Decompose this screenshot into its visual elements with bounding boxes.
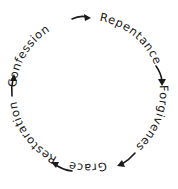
stage-repentance-label: Repentance	[99, 10, 165, 67]
cycle-diagram-svg: Confession Repentance Forgivenes Grace R…	[0, 0, 178, 189]
curved-arrow-right-icon	[72, 14, 91, 21]
stage-restoration: Restoration	[6, 100, 59, 167]
stage-grace: Grace	[67, 159, 108, 175]
stage-forgiveness: Forgivenes	[133, 85, 171, 155]
stage-forgiveness-label: Forgivenes	[133, 85, 171, 155]
cycle-diagram: Confession Repentance Forgivenes Grace R…	[0, 0, 178, 189]
stage-repentance: Repentance	[99, 10, 165, 67]
stage-restoration-label: Restoration	[6, 100, 59, 167]
stage-grace-label: Grace	[67, 159, 108, 175]
curved-arrow-down-left-icon	[117, 153, 135, 167]
curved-arrow-down-icon	[156, 66, 166, 86]
